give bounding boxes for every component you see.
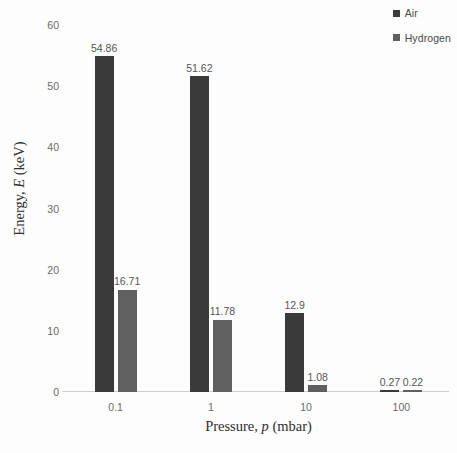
x-axis-tick-label: 10 (300, 401, 312, 413)
bar-rect (403, 390, 422, 392)
bar-hydrogen[interactable]: 1.08 (308, 25, 327, 392)
bar-value-label: 0.27 (380, 377, 400, 388)
y-axis-tick-label: 10 (47, 325, 59, 337)
x-axis-title: Pressure, p (mbar) (68, 418, 449, 435)
y-axis-tick-label: 20 (47, 264, 59, 276)
bar-air[interactable]: 51.62 (190, 25, 209, 392)
x-axis-tick-label: 1 (208, 401, 214, 413)
x-axis-tick-label: 100 (393, 401, 411, 413)
bar-rect (190, 76, 209, 392)
legend-item-air[interactable]: Air (393, 8, 418, 19)
axis-title-text: Pressure, (205, 418, 261, 434)
bar-rect (213, 320, 232, 392)
y-axis-tick-label: 50 (47, 80, 59, 92)
bar-value-label: 54.86 (91, 43, 117, 54)
bar-hydrogen[interactable]: 0.22 (403, 25, 422, 392)
bar-rect (95, 56, 114, 392)
bar-value-label: 16.71 (114, 276, 140, 287)
y-axis-tick-label: 30 (47, 203, 59, 215)
bar-value-label: 51.62 (186, 63, 212, 74)
axis-title-text: (keV) (11, 141, 27, 178)
bar-hydrogen[interactable]: 11.78 (213, 25, 232, 392)
plot-area: 0102030405060 54.8616.710.151.6211.78112… (68, 25, 449, 392)
bar-value-label: 11.78 (210, 306, 236, 317)
bar-rect (285, 313, 304, 392)
bar-rect (380, 390, 399, 392)
axis-title-text: (mbar) (269, 418, 312, 434)
x-axis-symbol: p (262, 418, 269, 434)
y-axis-title: Energy, E (keV) (11, 84, 28, 294)
legend-item-label: Air (405, 8, 418, 19)
bar-air[interactable]: 54.86 (95, 25, 114, 392)
y-axis-tick-label: 60 (47, 19, 59, 31)
axis-title-text: Energy, (11, 188, 27, 236)
y-axis-tick-label: 40 (47, 141, 59, 153)
y-axis-symbol: E (11, 179, 27, 188)
bar-value-label: 0.22 (403, 377, 423, 388)
bar-chart: AirHydrogen 0102030405060 54.8616.710.15… (0, 0, 457, 453)
bar-value-label: 1.08 (307, 372, 327, 383)
bar-group: 54.8616.710.1 (68, 25, 163, 392)
bar-air[interactable]: 0.27 (380, 25, 399, 392)
bar-rect (118, 290, 137, 392)
legend-swatch-icon (393, 10, 400, 17)
x-axis-tick-label: 0.1 (108, 401, 123, 413)
bar-rect (308, 385, 327, 392)
bar-group: 12.91.0810 (259, 25, 354, 392)
y-axis-tick-label: 0 (53, 386, 59, 398)
bar-hydrogen[interactable]: 16.71 (118, 25, 137, 392)
bar-value-label: 12.9 (284, 300, 304, 311)
bar-group: 0.270.22100 (354, 25, 449, 392)
bar-group: 51.6211.781 (163, 25, 258, 392)
bar-air[interactable]: 12.9 (285, 25, 304, 392)
